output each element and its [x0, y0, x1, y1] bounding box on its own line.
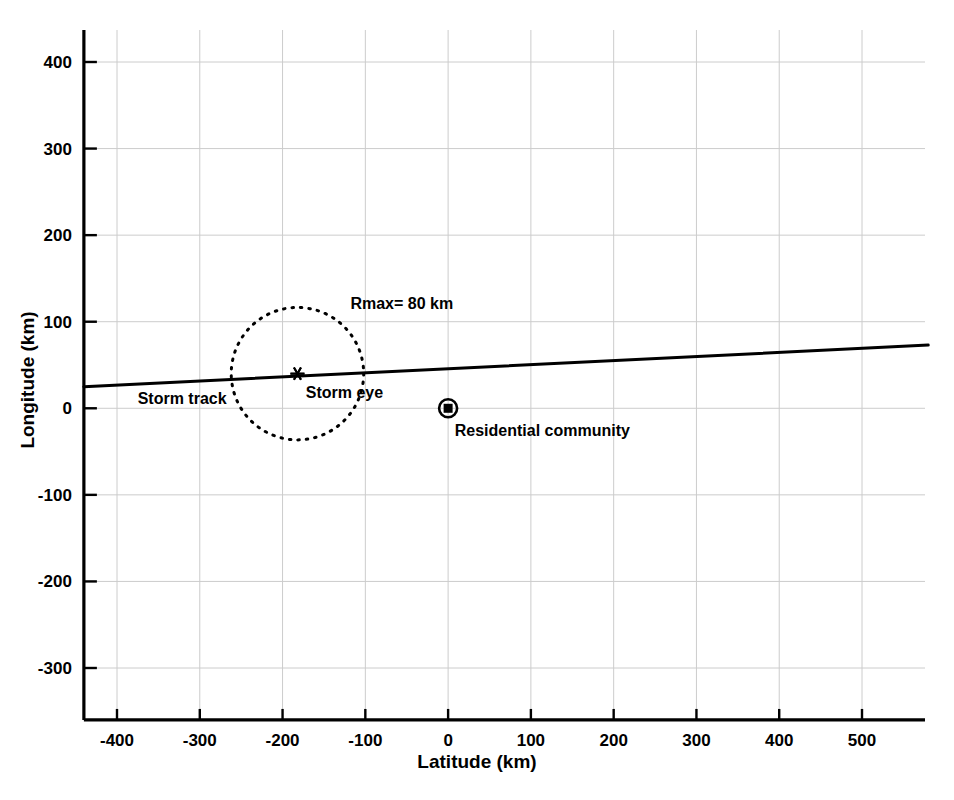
- y-axis-title: Longitude (km): [17, 311, 38, 448]
- storm-eye-label: Storm eye: [306, 384, 383, 401]
- x-tick-label: 100: [517, 731, 545, 750]
- y-tick-label: -200: [38, 572, 72, 591]
- x-axis-title: Latitude (km): [417, 751, 536, 772]
- annotations-group: Rmax= 80 kmStorm trackStorm eyeResidenti…: [138, 295, 630, 439]
- x-tick-label: -300: [183, 731, 217, 750]
- y-tick-label: -300: [38, 659, 72, 678]
- x-tick-label: 200: [599, 731, 627, 750]
- storm-track-figure: -400-300-200-1000100200300400500-300-200…: [0, 0, 954, 800]
- y-tick-label: 300: [44, 140, 72, 159]
- y-tick-label: 200: [44, 226, 72, 245]
- storm-eye-marker: [290, 368, 304, 380]
- y-tick-label: 400: [44, 53, 72, 72]
- rmax-label: Rmax= 80 km: [350, 295, 453, 312]
- x-tick-label: 400: [765, 731, 793, 750]
- x-tick-label: 500: [848, 731, 876, 750]
- storm-track-label: Storm track: [138, 390, 227, 407]
- storm-track-line: [84, 345, 928, 387]
- x-tick-label: 300: [682, 731, 710, 750]
- axis-lines-group: [84, 30, 925, 720]
- residential-community-label: Residential community: [455, 422, 630, 439]
- storm-track-chart: -400-300-200-1000100200300400500-300-200…: [0, 0, 954, 800]
- x-tick-label: 0: [443, 731, 452, 750]
- y-tick-label: 0: [62, 399, 71, 418]
- x-tick-label: -100: [348, 731, 382, 750]
- y-tick-label: -100: [38, 486, 72, 505]
- gridlines-group: [84, 30, 925, 720]
- x-tick-label: -200: [266, 731, 300, 750]
- y-tick-label: 100: [44, 313, 72, 332]
- data-series-group: [84, 345, 928, 387]
- x-tick-label: -400: [100, 731, 134, 750]
